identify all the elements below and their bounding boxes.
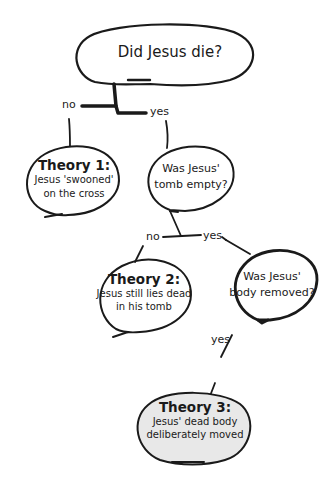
theory3-line2: deliberately moved [140,429,250,441]
node-q-body: Was Jesus' body removed? [226,271,318,299]
q-tomb-line2: tomb empty? [150,179,232,192]
theory2-line2: in his tomb [94,301,194,313]
q-tomb-line1: Was Jesus' [150,163,232,176]
theory3-line1: Jesus' dead body [140,416,250,428]
root-stem [114,84,116,106]
node-theory1: Theory 1: Jesus 'swooned' on the cross [30,158,118,200]
theory1-line2: on the cross [30,188,118,200]
edge-label-body-yes: yes [211,333,230,346]
q-body-line2: body removed? [226,287,318,300]
q-body-line1: Was Jesus' [226,271,318,284]
edge-label-root-no: no [62,98,76,111]
theory1-line1: Jesus 'swooned' [30,174,118,186]
theory3-title: Theory 3: [140,400,250,416]
node-theory3: Theory 3: Jesus' dead body deliberately … [140,400,250,441]
edge-label-tomb-yes: yes [203,229,222,242]
node-theory2: Theory 2: Jesus still lies dead in his t… [94,272,194,313]
theory2-line1: Jesus still lies dead [94,288,194,300]
theory2-title: Theory 2: [94,272,194,288]
theory1-title: Theory 1: [30,158,118,174]
edge-label-root-yes: yes [150,105,169,118]
node-root-label: Did Jesus die? [90,44,250,61]
tomb-stem [170,211,181,236]
edge-root-yes [166,121,168,148]
edge-label-tomb-no: no [146,230,160,243]
edge-tomb-yes [226,240,250,254]
edge-root-no [69,119,70,146]
node-q-tomb: Was Jesus' tomb empty? [150,163,232,191]
